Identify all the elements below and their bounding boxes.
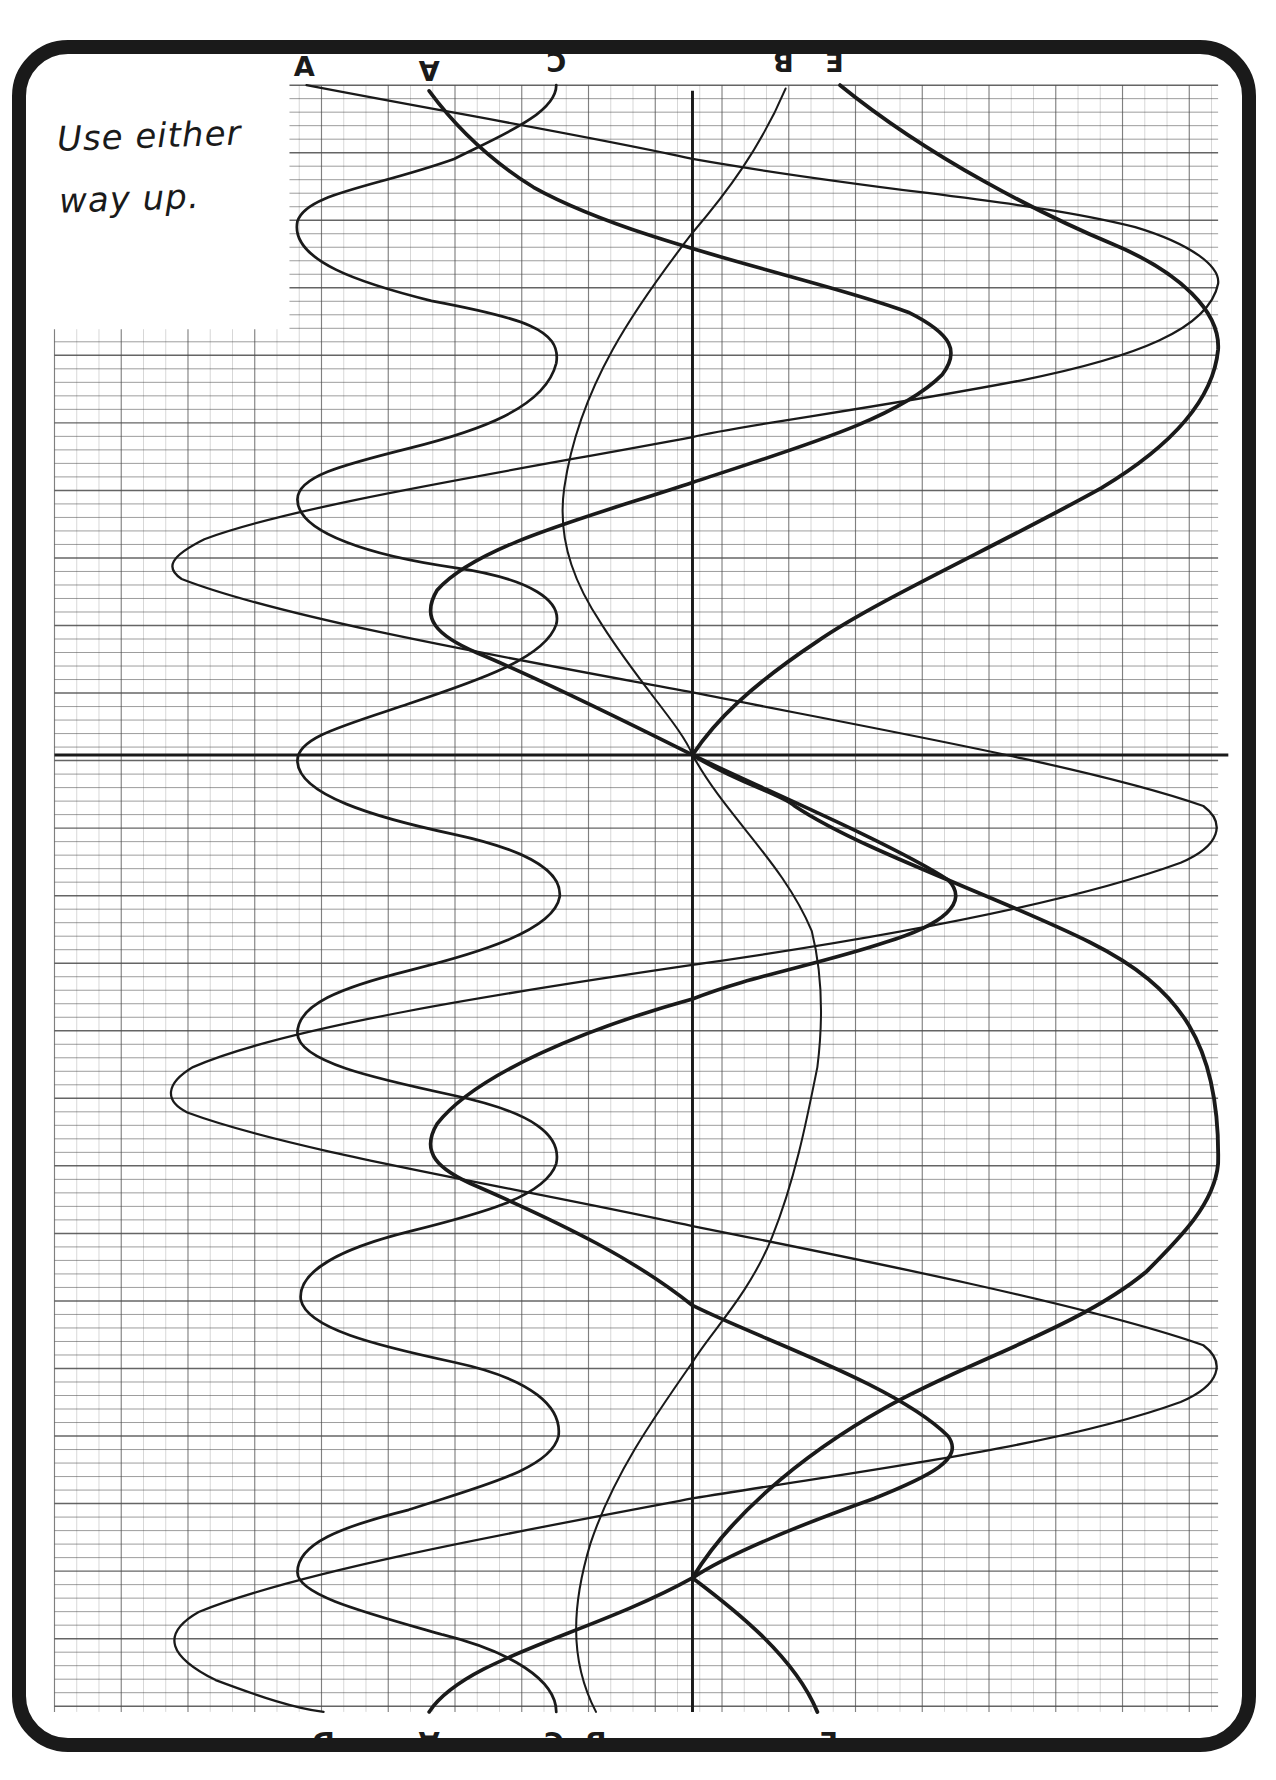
bottom-label-d: D	[312, 1726, 335, 1757]
graph-paper-plot: AACBEDACBE	[0, 0, 1276, 1780]
top-label-a: A	[419, 55, 440, 86]
bottom-label-e: E	[819, 1726, 838, 1757]
curve-c	[297, 85, 560, 1712]
graph-grid	[54, 85, 1218, 1712]
bottom-label-b: B	[586, 1726, 607, 1757]
top-label-c: C	[546, 46, 566, 77]
top-label-a: A	[294, 51, 315, 82]
top-label-e: E	[825, 46, 844, 77]
curve-d	[171, 85, 1218, 1712]
bottom-label-a: A	[419, 1726, 440, 1757]
bottom-label-c: C	[544, 1726, 564, 1757]
worksheet: Use either way up. AACBEDACBE	[0, 0, 1276, 1780]
curves	[171, 85, 1218, 1712]
top-label-b: B	[773, 46, 794, 77]
curve-labels: AACBEDACBE	[294, 46, 844, 1757]
